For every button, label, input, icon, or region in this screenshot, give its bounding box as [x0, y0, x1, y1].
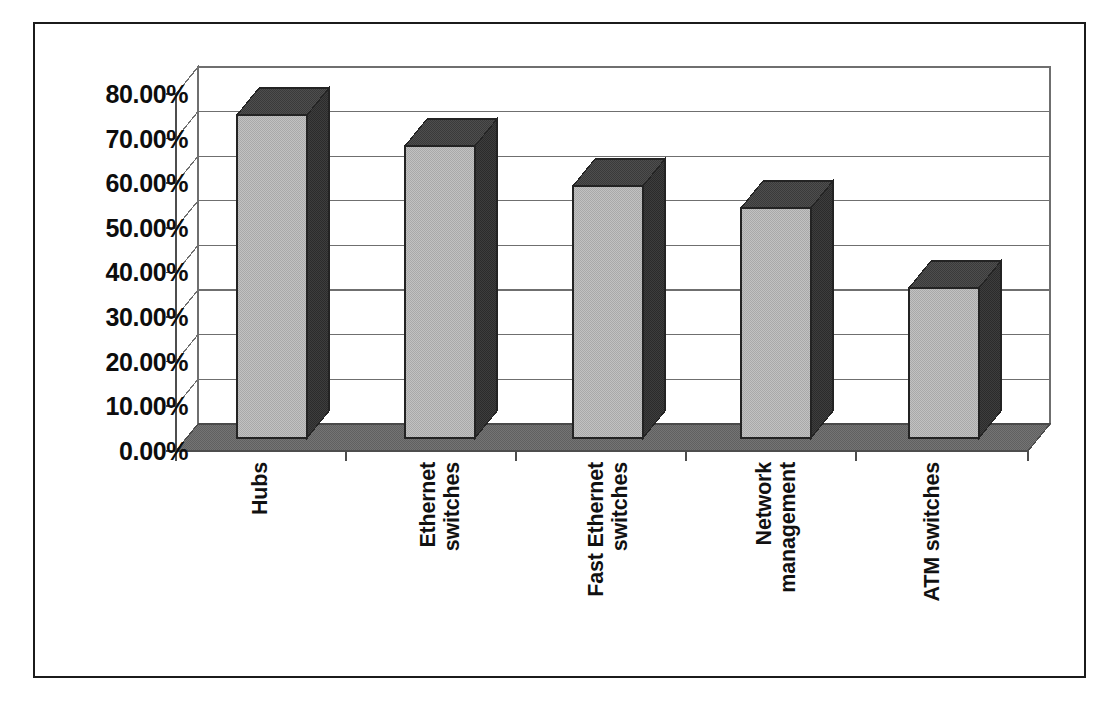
x-category-label-fast-ethernet-switches: Fast Ethernet switches: [584, 462, 632, 652]
x-category-label-network-management: Network management: [752, 462, 800, 652]
x-category-label-hubs: Hubs: [248, 462, 272, 652]
x-axis-labels: Hubs Ethernet switches Fast Ethernet swi…: [0, 0, 1117, 703]
x-category-label-ethernet-switches: Ethernet switches: [416, 462, 464, 652]
x-category-label-atm-switches: ATM switches: [920, 462, 944, 652]
chart-root: 80.00% 70.00% 60.00% 50.00% 40.00% 30.00…: [0, 0, 1117, 703]
